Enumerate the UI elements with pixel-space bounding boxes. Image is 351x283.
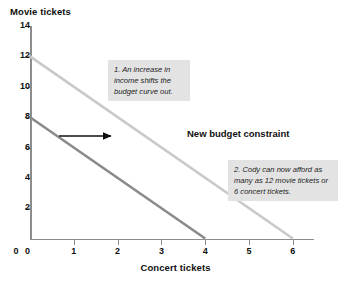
annotation-callout-1: 1. An increase in income shifts the budg… — [108, 60, 190, 101]
plot-area — [0, 0, 351, 283]
new-budget-constraint-label: New budget constraint — [187, 128, 289, 139]
budget-constraint-chart: Movie tickets Concert tickets 14 12 10 8… — [0, 0, 351, 283]
annotation-callout-2: 2. Cody can now afford as many as 12 mov… — [228, 160, 338, 201]
original-budget-constraint-line — [30, 117, 205, 238]
